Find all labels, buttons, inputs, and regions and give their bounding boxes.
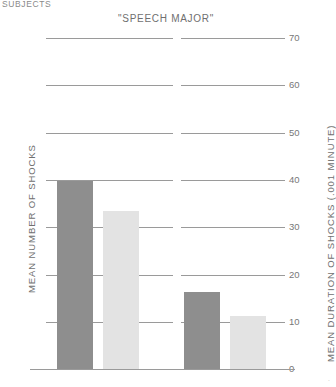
y-tick-right: 60 <box>289 79 319 90</box>
y-tick-right: 40 <box>289 174 319 185</box>
gridline-right <box>181 85 285 86</box>
gridline-right <box>181 38 285 39</box>
gridline-right <box>181 133 285 134</box>
y-tick-right: 30 <box>289 221 319 232</box>
gridline-left <box>46 133 173 134</box>
bar-group2-light <box>230 316 266 369</box>
corner-mark: · <box>328 377 330 384</box>
gridline-right <box>181 180 285 181</box>
gridline-left <box>46 85 173 86</box>
y-axis-right-caption: MEAN DURATION OF SHOCKS (.001 MINUTE) <box>325 125 336 362</box>
y-tick-right: 50 <box>289 127 319 138</box>
x-axis-baseline <box>30 369 295 370</box>
y-axis-left-caption: MEAN NUMBER OF SHOCKS <box>26 144 37 293</box>
gridline-right <box>181 227 285 228</box>
bar-group1-dark <box>57 181 93 369</box>
gridline-left <box>46 38 173 39</box>
gridline-right <box>181 275 285 276</box>
y-tick-right: 70 <box>289 32 319 43</box>
bar-group2-dark <box>184 292 220 369</box>
y-tick-right: 10 <box>289 316 319 327</box>
y-tick-right: 20 <box>289 269 319 280</box>
bar-group1-light <box>103 211 139 369</box>
